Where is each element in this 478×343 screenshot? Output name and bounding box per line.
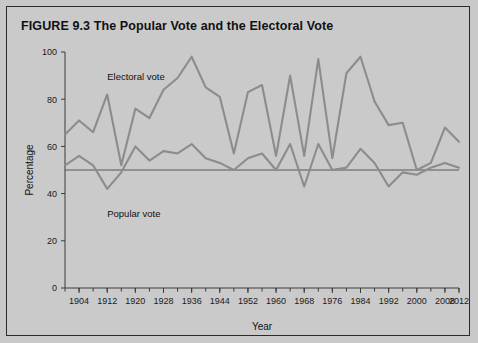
x-tick-label: 2012 [449,296,469,306]
annotation-electoral-vote: Electoral vote [107,71,165,82]
x-tick-label: 1960 [266,296,286,306]
line-chart-svg: 020406080100 190419121920192819361944195… [7,7,471,337]
y-tick-label: 80 [47,95,57,105]
y-tick-label: 20 [47,236,57,246]
y-axis: 020406080100 [42,47,65,293]
series-annotations: Electoral votePopular vote [107,71,165,219]
y-tick-label: 40 [47,189,57,199]
x-tick-label: 1936 [182,296,202,306]
y-tick-label: 60 [47,142,57,152]
x-tick-label: 1904 [69,296,89,306]
x-tick-label: 1944 [210,296,230,306]
x-tick-label: 1968 [294,296,314,306]
y-tick-label: 0 [52,283,57,293]
figure-container: FIGURE 9.3 The Popular Vote and the Elec… [6,6,470,336]
annotation-popular-vote: Popular vote [107,208,160,219]
x-tick-label: 2000 [407,296,427,306]
x-tick-label: 1952 [238,296,258,306]
y-axis-title: Percentage [24,144,35,196]
x-tick-label: 1976 [322,296,342,306]
x-tick-label: 1920 [125,296,145,306]
x-tick-label: 1984 [350,296,370,306]
x-axis-title: Year [252,321,273,332]
x-tick-label: 1992 [379,296,399,306]
x-tick-label: 1912 [97,296,117,306]
y-tick-label: 100 [42,47,57,57]
x-axis: 1904191219201928193619441952196019681976… [65,288,469,306]
x-tick-label: 1928 [153,296,173,306]
chart-plot-area: 020406080100 190419121920192819361944195… [7,7,471,337]
